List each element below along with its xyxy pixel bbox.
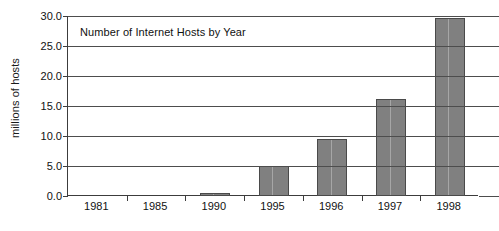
gridline: [68, 166, 479, 167]
bar: [317, 139, 347, 196]
y-axis-tick-label: 20.0: [22, 70, 62, 82]
bar-chart: millions of hosts 30.025.020.015.010.05.…: [0, 0, 499, 231]
bar: [376, 99, 406, 196]
x-axis-tick-label: 1985: [143, 200, 167, 212]
y-axis-tick-label: 30.0: [22, 10, 62, 22]
y-axis-tick-label: 25.0: [22, 40, 62, 52]
x-axis-tick-label: 1997: [378, 200, 402, 212]
bar: [259, 166, 289, 196]
x-axis-tick-label: 1995: [260, 200, 284, 212]
bar: [200, 193, 230, 196]
gridline: [68, 76, 479, 77]
gridline: [68, 106, 479, 107]
y-axis-tick: [63, 76, 68, 77]
x-axis-tick-label: 1981: [84, 200, 108, 212]
x-axis-tick-label: 1990: [202, 200, 226, 212]
y-axis-tick: [63, 106, 68, 107]
y-axis-tick-right: [479, 136, 499, 137]
y-axis-tick-right: [479, 76, 499, 77]
gridline: [68, 46, 479, 47]
x-axis-tick-label: 1996: [319, 200, 343, 212]
y-axis-tick-right: [479, 46, 499, 47]
plot-area: [67, 16, 478, 196]
x-axis-tick-labels: 1981198519901995199619971998: [67, 200, 478, 220]
y-axis-tick: [63, 136, 68, 137]
x-axis-tick-label: 1998: [436, 200, 460, 212]
y-axis-tick-right: [479, 106, 499, 107]
y-axis-tick-label: 10.0: [22, 130, 62, 142]
y-axis-tick-labels: 30.025.020.015.010.05.00.0: [20, 16, 62, 196]
y-axis-tick: [63, 46, 68, 47]
chart-title: Number of Internet Hosts by Year: [80, 26, 246, 38]
y-axis-tick-label: 5.0: [22, 160, 62, 172]
y-axis-tick-label: 15.0: [22, 100, 62, 112]
y-axis-tick: [63, 196, 68, 197]
gridline: [68, 136, 479, 137]
y-axis-tick-label: 0.0: [22, 190, 62, 202]
y-axis-tick-right: [479, 166, 499, 167]
y-axis-tick: [63, 166, 68, 167]
gridline: [68, 16, 479, 17]
y-axis-tick: [63, 16, 68, 17]
y-axis-tick-right: [479, 196, 499, 197]
y-axis-tick-right: [479, 16, 499, 17]
